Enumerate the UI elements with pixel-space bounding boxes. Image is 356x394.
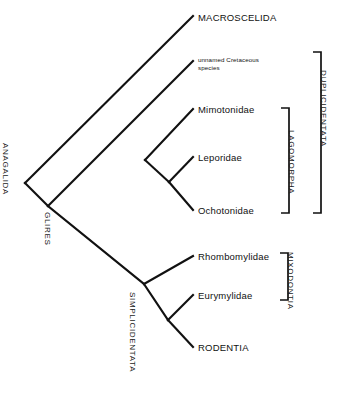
bracket-label-duplicidentata: DUPLICIDENTATA — [319, 70, 328, 147]
branch-duplicidentata-mimotonidae — [145, 109, 193, 160]
tip-label-rhombomylidae: Rhombomylidae — [198, 252, 269, 262]
tip-label-macroscelida: MACROSCELIDA — [198, 13, 276, 23]
node-label-simplicidentata: SIMPLICIDENTATA — [128, 292, 137, 372]
branch-simplicidentata-rhombomylidae — [144, 256, 193, 284]
tree-branches — [0, 0, 356, 394]
branch-glires-simplicidentata — [48, 206, 144, 284]
tip-label-ochotonidae: Ochotonidae — [198, 206, 254, 216]
bracket-label-lagomorpha: LAGOMORPHA — [287, 130, 296, 194]
node-label-glires: GLIRES — [43, 212, 52, 246]
tip-label-rodentia: RODENTIA — [198, 343, 249, 353]
tip-label-mimotonidae: Mimotonidae — [198, 105, 255, 115]
branch-lagomorpha-leporidae — [169, 157, 193, 182]
cladogram-diagram: MACROSCELIDA unnamed Cretaceous species … — [0, 0, 356, 394]
branch-simplicidentata-mixodontia — [144, 284, 168, 320]
tip-label-unnamed-cretaceous: unnamed Cretaceous species — [198, 56, 276, 73]
branch-anagalida-macroscelida — [25, 16, 193, 183]
branch-lagomorpha-ochotonidae — [169, 182, 193, 210]
tip-label-eurymylidae: Eurymylidae — [198, 291, 252, 301]
node-label-anagalida: ANAGALIDA — [1, 143, 10, 195]
branch-mixodontia-rodentia — [168, 320, 193, 347]
branch-mixodontia-eurymylidae — [168, 295, 193, 320]
branch-anagalida-glires — [25, 183, 48, 206]
tip-label-leporidae: Leporidae — [198, 153, 242, 163]
branch-duplicidentata-lagomorpha — [145, 160, 169, 182]
bracket-label-mixodontia: MIXODONTIA — [286, 252, 295, 310]
